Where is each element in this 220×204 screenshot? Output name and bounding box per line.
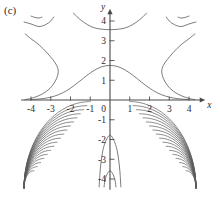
axes-group bbox=[21, 9, 205, 190]
origin-label: 0 bbox=[101, 104, 106, 114]
panel-label: (c) bbox=[4, 4, 16, 16]
y-tick-label: -3 bbox=[98, 155, 106, 165]
plot-canvas: -4-3-2-112344321-1-2-3-40xy bbox=[0, 0, 220, 204]
x-tick-label: 1 bbox=[127, 104, 132, 114]
y-tick-label: 1 bbox=[101, 76, 106, 86]
y-tick-label: 2 bbox=[101, 56, 106, 66]
y-axis-arrowhead bbox=[107, 9, 112, 15]
level-curve-top-left-arc-outer bbox=[24, 17, 54, 26]
y-tick-label: -1 bbox=[98, 115, 106, 125]
x-tick-label: -1 bbox=[86, 104, 94, 114]
x-tick-label: -2 bbox=[67, 104, 75, 114]
y-tick-label: -2 bbox=[98, 135, 106, 145]
level-curve-top-left-arc-inner bbox=[31, 16, 42, 18]
level-curve-upper-right-branch bbox=[162, 34, 195, 100]
level-curve-upper-left-branch bbox=[25, 34, 58, 100]
x-tick-label: -3 bbox=[47, 104, 55, 114]
y-tick-label: 3 bbox=[101, 36, 106, 46]
y-tick-label: -4 bbox=[98, 174, 106, 184]
y-axis-label: y bbox=[100, 2, 106, 12]
x-tick-label: 4 bbox=[187, 104, 192, 114]
x-tick-label: 3 bbox=[167, 104, 172, 114]
x-tick-label: 2 bbox=[147, 104, 152, 114]
x-axis-arrowhead bbox=[200, 97, 206, 102]
level-curve-top-right-arc-inner bbox=[178, 16, 189, 18]
curve-family-lower-left-family bbox=[24, 102, 90, 188]
level-curve-top-right-arc-outer bbox=[166, 17, 196, 26]
x-tick-label: -4 bbox=[27, 104, 35, 114]
x-axis-label: x bbox=[206, 100, 212, 110]
curve-family-lower-right-family bbox=[130, 102, 196, 188]
y-tick-label: 4 bbox=[101, 16, 106, 26]
contour-plot-figure: (c) -4-3-2-112344321-1-2-3-40xy bbox=[0, 0, 220, 204]
